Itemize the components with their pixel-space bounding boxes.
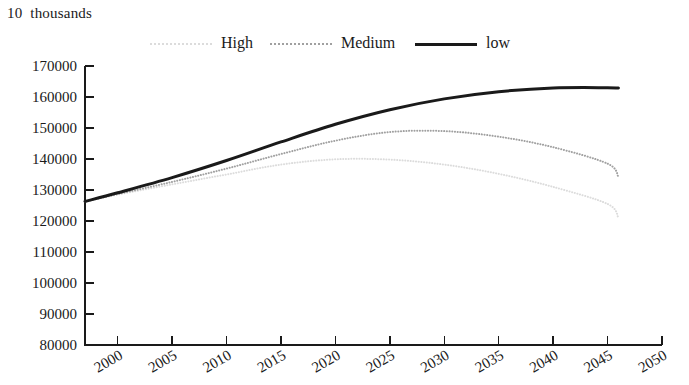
x-axis-ticks — [118, 336, 662, 345]
x-axis-tick-labels: 2000200520102015202020252030203520402045… — [91, 347, 669, 376]
x-tick-label: 2005 — [146, 347, 180, 376]
y-axis-ticks — [85, 66, 94, 345]
x-tick-label: 2020 — [309, 347, 343, 376]
x-tick-label: 2010 — [200, 347, 234, 376]
y-tick-label: 100000 — [32, 275, 77, 291]
x-tick-label: 2030 — [418, 347, 452, 376]
x-tick-label: 2025 — [363, 347, 397, 376]
y-tick-label: 110000 — [33, 244, 77, 260]
x-tick-label: 2000 — [91, 347, 125, 376]
y-axis-tick-labels: 8000090000100000110000120000130000140000… — [32, 58, 77, 353]
series-line-high — [85, 159, 618, 218]
x-tick-label: 2035 — [472, 347, 506, 376]
y-tick-label: 160000 — [32, 89, 77, 105]
chart-container: 10 thousands High Medium low 80000900001… — [0, 0, 689, 385]
axis-frame — [85, 66, 662, 345]
y-tick-label: 90000 — [40, 306, 78, 322]
y-tick-label: 80000 — [40, 337, 78, 353]
y-tick-label: 170000 — [32, 58, 77, 74]
series-line-medium — [85, 131, 618, 202]
x-tick-label: 2045 — [581, 347, 615, 376]
x-tick-label: 2015 — [254, 347, 288, 376]
x-tick-label: 2050 — [636, 347, 670, 376]
y-tick-label: 130000 — [32, 182, 77, 198]
y-tick-label: 140000 — [32, 151, 77, 167]
y-tick-label: 120000 — [32, 213, 77, 229]
plot-area: 8000090000100000110000120000130000140000… — [0, 0, 689, 385]
x-tick-label: 2040 — [527, 347, 561, 376]
series-lines — [85, 88, 618, 218]
y-tick-label: 150000 — [32, 120, 77, 136]
